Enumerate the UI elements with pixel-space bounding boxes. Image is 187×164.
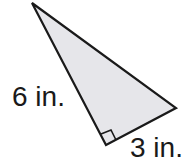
left-leg-label: 6 in. (12, 81, 65, 112)
right-triangle (32, 3, 176, 145)
triangle-diagram: 6 in. 3 in. (0, 0, 187, 164)
bottom-leg-label: 3 in. (130, 132, 183, 163)
